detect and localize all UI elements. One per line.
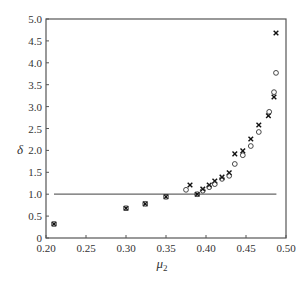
y-tick-label: 3.5 [28, 79, 42, 91]
x-tick-label: 0.35 [156, 242, 176, 254]
y-tick-label: 4.0 [28, 57, 42, 69]
x-tick-label: 0.45 [236, 242, 256, 254]
scatter-chart: 00.51.01.52.02.53.03.54.04.55.0 0.200.25… [0, 0, 307, 282]
circle-marker [227, 173, 232, 178]
x-tick-label: 0.30 [116, 242, 136, 254]
circle-marker [240, 153, 245, 158]
y-tick-label: 0.5 [28, 210, 42, 222]
y-tick-label: 2.0 [28, 144, 42, 156]
circle-marker [274, 70, 279, 75]
circle-marker [184, 187, 189, 192]
circle-marker [256, 130, 261, 135]
y-tick-label: 1.0 [28, 188, 42, 200]
circle-marker [272, 90, 277, 95]
y-tick-label: 5.0 [28, 13, 42, 25]
svg-text:μ2: μ2 [155, 256, 167, 273]
y-tick-label: 2.5 [28, 123, 42, 135]
y-axis-label: δ [17, 142, 24, 157]
plot-area-border [46, 19, 286, 238]
x-axis-label: μ2 [155, 256, 167, 273]
x-tick-label: 0.50 [276, 242, 296, 254]
x-tick-label: 0.25 [76, 242, 96, 254]
plot-frame [46, 19, 286, 238]
circle-marker [232, 162, 237, 167]
circle-marker [267, 109, 272, 114]
cross-marker [257, 123, 262, 128]
circle-marker [248, 144, 253, 149]
y-tick-label: 3.0 [28, 101, 42, 113]
circle-marker [212, 182, 217, 187]
y-tick-label: 4.5 [28, 35, 42, 47]
cross-marker [272, 95, 277, 100]
cross-marker [274, 31, 279, 36]
data-points [52, 31, 279, 227]
cross-marker [249, 137, 254, 142]
cross-marker [188, 183, 193, 188]
cross-marker [233, 152, 238, 157]
y-tick-label: 1.5 [28, 166, 42, 178]
x-tick-label: 0.40 [196, 242, 216, 254]
x-tick-label: 0.20 [36, 242, 56, 254]
